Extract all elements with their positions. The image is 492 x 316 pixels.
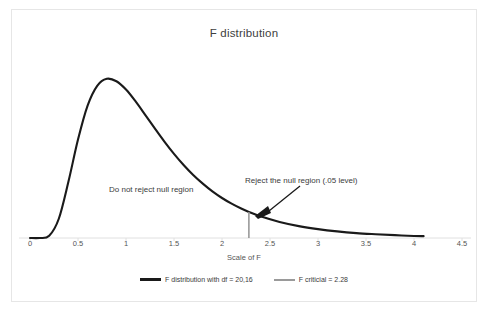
x-tick-label: 0 [28, 239, 32, 248]
x-tick-label: 2 [220, 239, 224, 248]
legend-item-distribution[interactable]: F distribution with df = 20,16 [140, 276, 253, 283]
annotation-reject-region: Reject the null region (.05 level) [245, 176, 358, 185]
x-tick-label: 1 [124, 239, 128, 248]
x-tick-label: 4.5 [457, 239, 467, 248]
x-tick-label: 2.5 [265, 239, 275, 248]
legend-swatch-icon-distribution [140, 278, 161, 280]
x-tick-label: 1.5 [169, 239, 179, 248]
x-axis-title: Scale of F [12, 253, 476, 262]
x-tick-label: 0.5 [73, 239, 83, 248]
chart-legend: F distribution with df = 20,16 F critici… [12, 276, 476, 283]
f-distribution-curve [30, 79, 424, 239]
x-tick-label: 3.5 [361, 239, 371, 248]
chart-container: F distribution Do not reject null region… [11, 9, 477, 302]
x-tick-label: 4 [412, 239, 416, 248]
legend-label-critical: F criticial = 2.28 [299, 276, 348, 283]
legend-swatch-icon-critical [274, 279, 295, 281]
annotation-do-not-reject: Do not reject null region [109, 185, 194, 194]
x-tick-label: 3 [316, 239, 320, 248]
legend-label-distribution: F distribution with df = 20,16 [165, 276, 253, 283]
legend-item-critical[interactable]: F criticial = 2.28 [274, 276, 348, 283]
reject-region-arrow [255, 186, 300, 219]
